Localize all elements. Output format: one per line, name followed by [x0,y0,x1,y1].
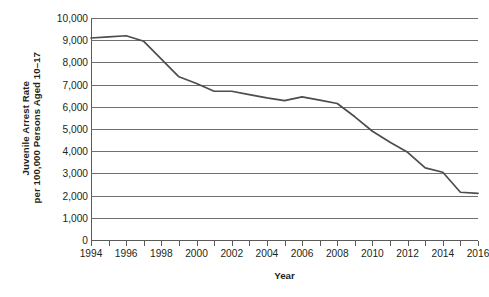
y-tick-label-10000: 10,000 [57,13,88,24]
x-tick-2003 [249,241,250,246]
x-tick-1999 [179,241,180,246]
x-tick-2010 [372,241,373,246]
x-tick-label-2002: 2002 [220,248,243,259]
x-tick-2008 [337,241,338,246]
x-tick-label-1996: 1996 [115,248,138,259]
x-tick-1995 [109,241,110,246]
x-tick-1998 [161,241,162,246]
x-tick-label-1998: 1998 [150,248,173,259]
x-tick-label-2000: 2000 [185,248,208,259]
x-tick-label-2008: 2008 [326,248,349,259]
x-tick-2014 [443,241,444,246]
y-axis-title-line-1: Juvenile Arrest Rate [21,81,31,175]
x-tick-1996 [126,241,127,246]
x-tick-label-2010: 2010 [361,248,384,259]
x-tick-label-1994: 1994 [80,248,103,259]
x-tick-2000 [197,241,198,246]
plot-area [91,18,478,240]
x-tick-2013 [425,241,426,246]
chart-figure: Juvenile Arrest Rate per 100,000 Persons… [0,0,489,297]
x-tick-2001 [214,241,215,246]
x-tick-2006 [302,241,303,246]
y-tick-label-4000: 4,000 [63,146,89,157]
y-tick-label-2000: 2,000 [63,190,89,201]
y-tick-label-0: 0 [82,235,88,246]
x-tick-2012 [408,241,409,246]
x-tick-2005 [285,241,286,246]
x-tick-label-2004: 2004 [256,248,279,259]
x-tick-2004 [267,241,268,246]
x-tick-1994 [91,241,92,246]
x-axis-tick-labels: 1994199619982000200220042006200820102012… [0,248,489,264]
x-tick-2009 [355,241,356,246]
x-tick-2011 [390,241,391,246]
x-tick-1997 [144,241,145,246]
x-tick-2015 [460,241,461,246]
x-tick-2016 [478,241,479,246]
x-axis-ticks [91,241,478,246]
x-tick-2007 [320,241,321,246]
x-tick-label-2012: 2012 [396,248,419,259]
x-tick-2002 [232,241,233,246]
y-tick-label-1000: 1,000 [63,212,89,223]
series-line-juvenile-arrest-rate [91,18,478,240]
y-tick-label-6000: 6,000 [63,101,89,112]
y-tick-label-9000: 9,000 [63,35,89,46]
y-tick-label-8000: 8,000 [63,57,89,68]
x-axis-title: Year [91,270,478,281]
x-tick-label-2016: 2016 [467,248,489,259]
y-tick-label-3000: 3,000 [63,168,89,179]
y-tick-label-7000: 7,000 [63,79,89,90]
x-tick-label-2014: 2014 [431,248,454,259]
x-tick-label-2006: 2006 [291,248,314,259]
y-tick-label-5000: 5,000 [63,124,89,135]
y-axis-tick-labels: 01,0002,0003,0004,0005,0006,0007,0008,00… [40,18,88,240]
